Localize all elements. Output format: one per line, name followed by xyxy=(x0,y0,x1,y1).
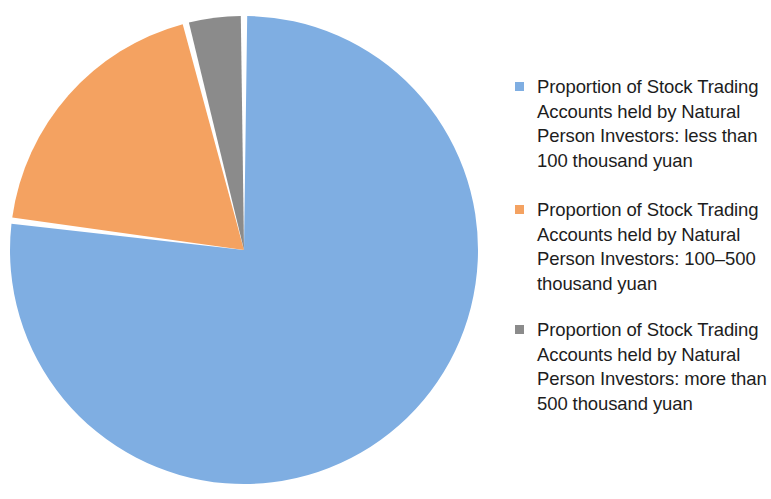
legend-square-marker-icon xyxy=(515,205,524,214)
legend: Proportion of Stock Trading Accounts hel… xyxy=(515,0,771,499)
legend-entry-label: Proportion of Stock Trading Accounts hel… xyxy=(537,318,767,416)
legend-entry-more-than-500k[interactable]: Proportion of Stock Trading Accounts hel… xyxy=(515,318,771,416)
legend-entry-label: Proportion of Stock Trading Accounts hel… xyxy=(537,198,758,296)
legend-entry-label: Proportion of Stock Trading Accounts hel… xyxy=(537,75,758,173)
pie-plot-area xyxy=(0,0,500,499)
pie-slice-group xyxy=(10,16,478,484)
pie-chart-figure: Proportion of Stock Trading Accounts hel… xyxy=(0,0,771,499)
legend-entry-100-500k[interactable]: Proportion of Stock Trading Accounts hel… xyxy=(515,198,771,296)
legend-square-marker-icon xyxy=(515,325,524,334)
legend-entry-less-than-100k[interactable]: Proportion of Stock Trading Accounts hel… xyxy=(515,75,771,173)
pie-svg xyxy=(0,0,500,499)
legend-square-marker-icon xyxy=(515,82,524,91)
